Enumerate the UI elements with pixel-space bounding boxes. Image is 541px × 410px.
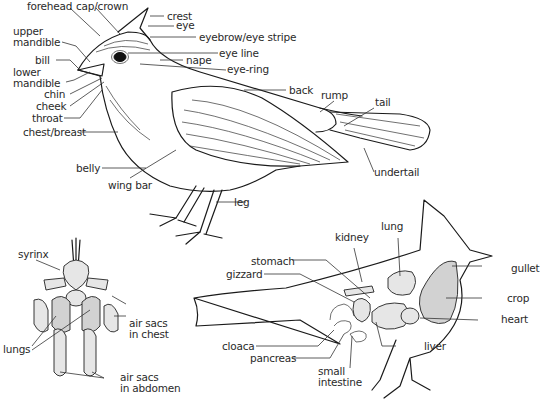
label-eye: eye: [176, 20, 195, 31]
label-cap-crown: cap/crown: [76, 1, 128, 12]
label-throat: throat: [32, 113, 63, 124]
label-upper-mandible: mandible: [13, 37, 60, 48]
label-cloaca: cloaca: [222, 341, 255, 352]
label-eyebrow-eye-stripe: eyebrow/eye stripe: [199, 32, 296, 43]
label-air-sacs-abdomen-2: in abdomen: [120, 383, 180, 394]
label-liver: liver: [424, 341, 446, 352]
label-air-sacs-chest-2: in chest: [129, 329, 169, 340]
label-eye-ring: eye-ring: [227, 64, 269, 75]
illustration-lines: [0, 0, 541, 410]
label-syrinx: syrinx: [18, 249, 49, 260]
label-wing-bar: wing bar: [108, 180, 152, 191]
label-lung: lung: [381, 221, 403, 232]
label-bill: bill: [35, 55, 50, 66]
label-kidney: kidney: [335, 232, 369, 243]
label-belly: belly: [76, 163, 100, 174]
label-heart: heart: [501, 314, 528, 325]
label-crop: crop: [507, 293, 529, 304]
label-tail: tail: [375, 97, 391, 108]
label-lungs: lungs: [3, 344, 30, 355]
external-bird-drawing: [78, 8, 430, 244]
label-undertail: undertail: [374, 167, 419, 178]
label-gullet: gullet: [511, 263, 540, 274]
label-stomach: stomach: [251, 256, 295, 267]
label-chin: chin: [44, 89, 65, 100]
label-cheek: cheek: [36, 101, 66, 112]
label-leg: leg: [234, 197, 249, 208]
label-back: back: [289, 85, 313, 96]
label-rump: rump: [321, 90, 348, 101]
label-chest-breast: chest/breast: [23, 127, 86, 138]
label-gizzard: gizzard: [226, 269, 262, 280]
label-small-intestine-2: intestine: [318, 377, 362, 388]
bird-anatomy-diagram: forehead cap/crown crest eye eyebrow/eye…: [0, 0, 541, 410]
label-pancreas: pancreas: [250, 353, 296, 364]
label-eye-line: eye line: [219, 48, 259, 59]
label-nape: nape: [186, 55, 211, 66]
label-forehead: forehead: [27, 1, 72, 12]
